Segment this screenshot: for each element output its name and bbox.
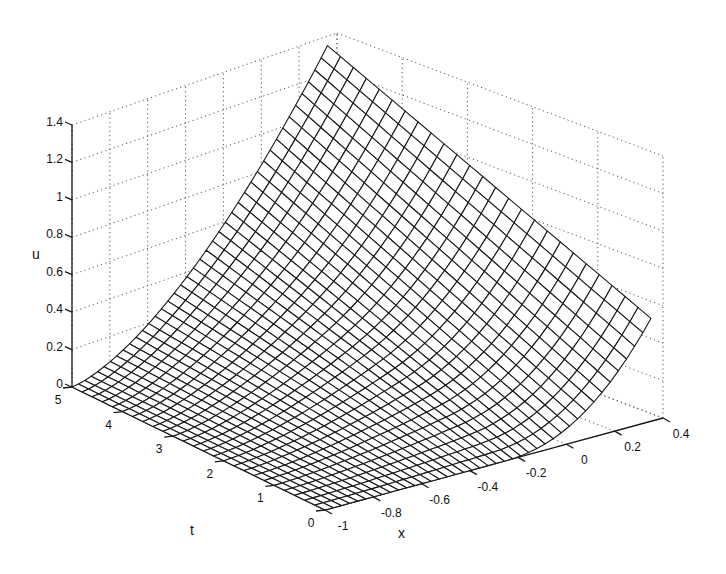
x-tick-label: -0.4 — [478, 480, 499, 494]
x-tick-label: -0.6 — [429, 493, 450, 507]
u-tick-label: 0.8 — [46, 227, 63, 241]
surface-mesh — [72, 46, 651, 510]
t-axis-label: t — [190, 522, 194, 538]
u-tick-label: 0.4 — [46, 302, 63, 316]
x-tick-label: -0.8 — [381, 506, 402, 520]
u-axis-label: u — [32, 246, 40, 262]
u-tick-label: 1.4 — [46, 115, 63, 129]
u-tick-label: 1 — [56, 190, 63, 204]
x-tick-label: 0 — [581, 453, 588, 467]
u-tick-label: 0.6 — [46, 265, 63, 279]
u-tick-label: 0 — [56, 377, 63, 391]
x-tick-label: -1 — [338, 519, 349, 533]
u-tick-label: 0.2 — [46, 340, 63, 354]
t-tick-label: 5 — [55, 393, 62, 407]
t-tick-label: 0 — [308, 516, 315, 530]
x-axis-label: x — [398, 525, 405, 541]
surface-plot: 00.20.40.60.811.21.4012345-1-0.8-0.6-0.4… — [0, 0, 726, 574]
x-tick-label: -0.2 — [526, 466, 547, 480]
t-tick-label: 3 — [156, 442, 163, 456]
t-tick-label: 4 — [105, 418, 112, 432]
t-tick-label: 1 — [257, 491, 264, 505]
u-tick-label: 1.2 — [46, 152, 63, 166]
t-tick-label: 2 — [206, 467, 213, 481]
x-tick-label: 0.2 — [624, 440, 641, 454]
x-tick-label: 0.4 — [673, 427, 690, 441]
